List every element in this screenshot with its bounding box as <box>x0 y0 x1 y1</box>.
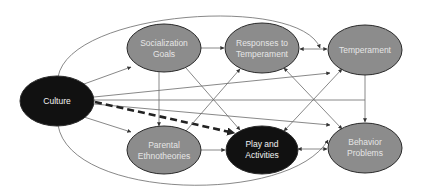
edge-culture-parental <box>84 117 131 132</box>
node-behavior-problems: Behavior Problems <box>328 123 402 173</box>
node-parental-ethnotheories-label-line2: Ethnotheories <box>138 151 190 161</box>
node-culture-label: Culture <box>43 96 71 106</box>
path-diagram: Culture Socialization Goals Responses to… <box>0 0 425 196</box>
node-play-and-activities-label-line2: Activities <box>245 150 279 160</box>
edge-responses-behavior <box>284 68 342 129</box>
node-parental-ethnotheories-label-line1: Parental <box>148 140 180 150</box>
edge-culture-socialization <box>84 67 131 84</box>
node-behavior-problems-label-line2: Problems <box>347 148 383 158</box>
node-behavior-problems-label-line1: Behavior <box>348 137 382 147</box>
node-responses-to-temperament-label-line2: Temperament <box>236 49 289 59</box>
edge-culture-behavior <box>94 104 330 125</box>
node-temperament: Temperament <box>328 25 402 75</box>
node-responses-to-temperament: Responses to Temperament <box>225 23 299 73</box>
node-socialization-goals-label-line2: Goals <box>153 49 175 59</box>
node-play-and-activities: Play and Activities <box>226 126 298 174</box>
edge-socialization-play <box>186 68 240 130</box>
node-play-and-activities-label-line1: Play and <box>245 139 278 149</box>
node-parental-ethnotheories: Parental Ethnotheories <box>127 126 201 174</box>
node-responses-to-temperament-label-line1: Responses to <box>236 38 288 48</box>
edge-culture-temperament <box>94 73 330 97</box>
node-socialization-goals-label-line1: Socialization <box>140 38 188 48</box>
node-socialization-goals: Socialization Goals <box>127 24 201 72</box>
node-temperament-label: Temperament <box>339 45 392 55</box>
node-culture: Culture <box>20 76 94 126</box>
